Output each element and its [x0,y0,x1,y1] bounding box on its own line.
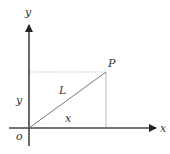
x-axis-label: x [160,122,167,135]
y-axis-label: y [24,6,32,19]
x-component-label: x [65,112,72,125]
y-component-label: y [15,94,23,107]
segment-L-label: L [58,84,66,97]
origin-label: o [16,130,23,143]
coordinate-diagram: y x o P L y x [0,0,170,154]
point-P-label: P [107,57,116,70]
